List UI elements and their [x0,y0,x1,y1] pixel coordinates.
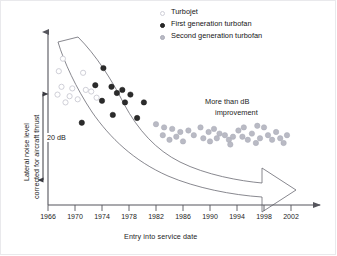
data-point [63,100,68,105]
data-point [255,123,260,128]
data-point [206,129,211,134]
x-axis-title: Entry into service date [124,232,197,241]
data-point [240,134,245,139]
data-point [128,92,133,97]
data-point [120,87,125,92]
data-point [170,126,175,131]
data-point [89,89,94,94]
data-point [249,131,254,136]
data-point [101,65,106,70]
data-point [178,129,183,134]
data-point [284,133,289,138]
improvement-note-line1: More than dB [205,97,249,107]
data-point [236,128,241,133]
x-axis-ticks [48,205,291,211]
improvement-note-line2: improvement [215,108,258,118]
data-point [269,137,274,142]
data-point [261,125,266,130]
data-point [207,139,212,144]
data-point [228,142,233,147]
data-point [201,136,206,141]
data-point [81,70,86,75]
data-point [109,84,114,89]
data-point [93,83,98,88]
data-point [122,100,127,105]
data-point [214,136,219,141]
data-point [79,120,84,125]
data-point [114,90,119,95]
legend-marker-second-gen [160,35,165,40]
x-tick-label: 1998 [251,213,277,220]
data-point [174,134,179,139]
x-tick-label: 1982 [143,213,169,220]
x-tick-label: 1970 [62,213,88,220]
data-point [186,128,191,133]
chart-figure: Turbojet First generation turbofan Secon… [0,0,337,256]
x-tick-label: 1966 [35,213,61,220]
x-tick-label: 2002 [278,213,304,220]
data-point [59,84,64,89]
legend-label-turbojet: Turbojet [171,7,198,16]
x-tick-label: 1978 [116,213,142,220]
data-point [83,87,88,92]
data-point [222,133,227,138]
data-point [75,97,80,102]
data-point [70,86,75,91]
data-point [141,100,146,105]
legend-marker-first-gen [160,23,165,28]
data-point [110,112,115,117]
data-point [265,133,270,138]
data-point [55,92,60,97]
data-point [153,122,158,127]
x-tick-label: 1990 [197,213,223,220]
data-point [67,94,72,99]
data-point [191,133,196,138]
legend-label-second-gen: Second generation turbofan [171,31,262,40]
x-tick-label: 1994 [224,213,250,220]
data-point [134,115,139,120]
y-axis-title-line2: corrected for aircraft thrust [32,115,41,199]
data-point [245,137,250,142]
scale-bar-label: 20 dB [46,133,67,142]
data-point [60,56,65,61]
data-point [180,139,185,144]
data-point [211,126,216,131]
data-point [241,125,246,130]
legend-marker-turbojet [160,11,165,16]
data-point [198,125,203,130]
data-point [230,134,235,139]
data-point [161,125,166,130]
data-point [273,129,278,134]
trend-arrow-shape [58,37,296,212]
data-point [253,140,258,145]
data-point [94,95,99,100]
data-point [56,69,61,74]
y-axis-title-line1: Lateral noise level [22,123,31,181]
legend-label-first-gen: First generation turbofan [171,19,252,28]
data-point [99,98,104,103]
data-point [167,137,172,142]
data-point [257,136,262,141]
data-point [281,140,286,145]
x-tick-label: 1974 [89,213,115,220]
data-point [160,133,165,138]
x-tick-label: 1986 [170,213,196,220]
data-point [278,136,283,141]
